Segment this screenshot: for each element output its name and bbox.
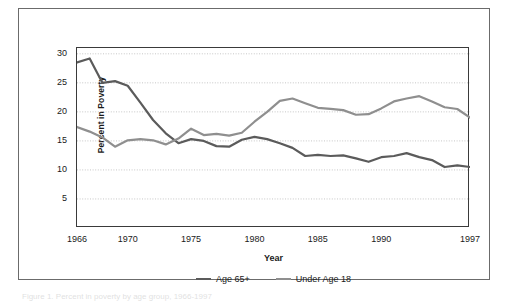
legend-swatch-0 xyxy=(196,278,211,281)
legend-label: Age 65+ xyxy=(216,274,250,284)
y-tick-label: 10 xyxy=(39,165,67,174)
chart-plot-area: Percent in Poverty 51015202530 196619701… xyxy=(76,47,469,227)
series-lines xyxy=(77,58,470,167)
gridlines xyxy=(77,54,470,199)
series-line-0 xyxy=(77,58,470,167)
x-tick-label: 1990 xyxy=(371,234,391,244)
x-tick-label: 1966 xyxy=(67,234,87,244)
legend-swatch-1 xyxy=(276,278,291,281)
y-tick-label: 15 xyxy=(39,136,67,145)
x-tick-label: 1970 xyxy=(118,234,138,244)
y-tick-label: 25 xyxy=(39,78,67,87)
legend-item: Under Age 18 xyxy=(276,274,351,284)
y-tick-label: 30 xyxy=(39,49,67,58)
legend-label: Under Age 18 xyxy=(296,274,351,284)
x-tick-label: 1980 xyxy=(244,234,264,244)
x-tick-label: 1997 xyxy=(460,234,480,244)
figure-caption: Figure 1. Percent in poverty by age grou… xyxy=(22,290,482,302)
line-chart-svg xyxy=(77,48,470,228)
x-axis-title: Year xyxy=(77,253,470,263)
y-tick-label: 20 xyxy=(39,107,67,116)
y-tick-label: 5 xyxy=(39,194,67,203)
x-tick-label: 1975 xyxy=(181,234,201,244)
chart-legend: Age 65+Under Age 18 xyxy=(77,274,470,284)
figure-frame: Percent in Poverty 51015202530 196619701… xyxy=(18,8,490,280)
x-tick-label: 1985 xyxy=(308,234,328,244)
legend-item: Age 65+ xyxy=(196,274,250,284)
series-line-1 xyxy=(77,96,470,147)
